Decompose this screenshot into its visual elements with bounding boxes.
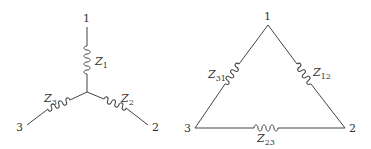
- wye-node-2-label: 2: [152, 121, 159, 134]
- delta-network: 1 2 3 Z31 Z12 Z23: [184, 10, 356, 147]
- delta-side-12: [268, 25, 345, 128]
- inductor-z1-icon: [84, 46, 90, 74]
- delta-wire-31-top: [239, 25, 268, 64]
- wye-z2-label: Z2: [120, 92, 134, 107]
- delta-node-1-label: 1: [264, 10, 271, 23]
- delta-wire-12-top: [268, 25, 297, 64]
- wye-wire-2-outer: [126, 108, 148, 125]
- wye-wire-2-inner: [87, 92, 104, 99]
- delta-z12-label: Z12: [312, 66, 331, 81]
- delta-z31-label: Z31: [207, 68, 226, 83]
- wye-branch-1: [84, 27, 90, 92]
- wye-node-1-label: 1: [83, 12, 90, 25]
- delta-side-31: [195, 25, 268, 128]
- delta-node-3-label: 3: [184, 122, 191, 135]
- inductor-z23-icon: [254, 125, 278, 131]
- wye-branch-3: [27, 92, 87, 125]
- wye-wire-3-outer: [27, 109, 48, 125]
- wye-node-3-label: 3: [16, 121, 23, 134]
- wye-branch-2: [87, 92, 148, 125]
- delta-wire-31-bottom: [195, 84, 225, 128]
- delta-wire-12-bottom: [311, 84, 345, 128]
- delta-side-23: [195, 125, 345, 131]
- inductor-z12-icon: [295, 62, 314, 85]
- delta-node-2-label: 2: [349, 122, 356, 135]
- delta-z23-label: Z23: [256, 132, 275, 147]
- wye-wire-3-inner: [70, 92, 87, 100]
- wye-z1-label: Z1: [94, 55, 108, 70]
- wye-delta-diagram: 1 2 3 Z1 Z2 Z3 1: [0, 0, 371, 149]
- wye-z3-label: Z3: [43, 92, 57, 107]
- wye-network: 1 2 3 Z1 Z2 Z3: [16, 12, 159, 134]
